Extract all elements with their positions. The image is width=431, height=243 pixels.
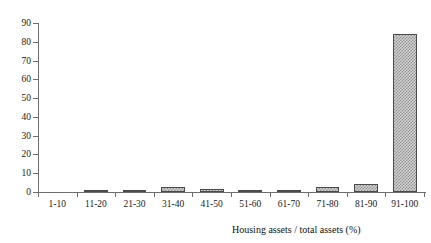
x-tick — [231, 192, 232, 197]
x-axis-title: Housing assets / total assets (%) — [232, 224, 361, 236]
bar — [84, 190, 108, 192]
bar — [354, 184, 378, 192]
x-tick-label: 51-60 — [239, 199, 261, 210]
x-tick — [308, 192, 309, 197]
plot-area — [38, 23, 424, 192]
x-tick — [192, 192, 193, 197]
x-tick-label: 61-70 — [278, 199, 300, 210]
bar — [316, 187, 340, 192]
x-tick-label: 11-20 — [85, 199, 107, 210]
bar — [200, 189, 224, 192]
x-tick-label: 41-50 — [201, 199, 223, 210]
x-axis-line — [38, 192, 426, 193]
x-tick-label: 1-10 — [49, 199, 66, 210]
x-tick — [385, 192, 386, 197]
x-tick-label: 91-100 — [391, 199, 418, 210]
x-tick-label: 31-40 — [162, 199, 184, 210]
x-tick — [115, 192, 116, 197]
x-tick-label: 81-90 — [355, 199, 377, 210]
bar — [393, 34, 417, 192]
x-tick — [347, 192, 348, 197]
x-tick — [38, 192, 39, 197]
x-tick-label: 71-80 — [316, 199, 338, 210]
x-tick — [154, 192, 155, 197]
x-tick — [424, 192, 425, 197]
bar — [123, 190, 147, 192]
bar — [238, 190, 262, 192]
x-tick — [270, 192, 271, 197]
x-tick — [77, 192, 78, 197]
chart-container: 0102030405060708090 1-1011-2021-3031-404… — [0, 0, 431, 243]
bar — [277, 190, 301, 192]
bar — [161, 187, 185, 192]
x-tick-label: 21-30 — [123, 199, 145, 210]
